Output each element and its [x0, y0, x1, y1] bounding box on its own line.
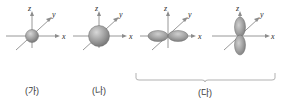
label-da: (다): [198, 88, 212, 98]
s-orbital-sphere-large: [89, 26, 110, 47]
x-axis-label-1: x: [61, 32, 66, 41]
diagram-p-x: z y x: [140, 4, 202, 50]
p-orbital-lobe-negative-x: [148, 31, 168, 42]
diagram-s-small: z y x: [6, 4, 66, 50]
y-axis-label-1: y: [51, 10, 56, 19]
diagram-p-z: z y x: [212, 4, 275, 55]
z-axis-label-3: z: [163, 4, 168, 13]
orbital-figure: z y x z y x: [0, 0, 282, 104]
s-orbital-sphere-small: [26, 30, 39, 43]
group-brace: [136, 73, 275, 82]
x-axis-label-3: x: [197, 32, 202, 41]
z-axis-3: [166, 11, 170, 48]
p-orbital-lobe-positive-x: [168, 31, 188, 42]
diagram-s-large: z y x: [73, 4, 133, 50]
y-axis-label-3: y: [187, 10, 192, 19]
label-ga: (가): [25, 86, 39, 96]
z-axis-label-4: z: [235, 4, 240, 13]
y-axis-label-2: y: [118, 10, 123, 19]
x-axis-label-2: x: [128, 32, 133, 41]
y-axis-label-4: y: [259, 10, 264, 19]
z-axis-label-2: z: [94, 4, 99, 13]
label-na: (나): [92, 86, 106, 96]
x-axis-label-4: x: [270, 32, 275, 41]
p-orbital-lobe-negative-z: [235, 35, 246, 55]
z-axis-label-1: z: [27, 4, 32, 13]
p-orbital-lobe-positive-z: [235, 17, 246, 37]
